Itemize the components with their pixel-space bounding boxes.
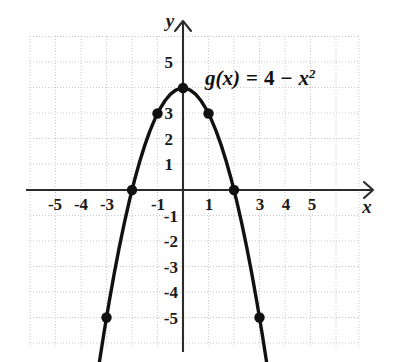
eqn-minus: − xyxy=(280,66,292,90)
x-tick-minus5: -5 xyxy=(48,195,62,214)
eqn-term: x xyxy=(297,66,309,90)
y-tick-minus2: -2 xyxy=(164,232,178,251)
y-tick-minus4: -4 xyxy=(164,283,179,302)
data-point xyxy=(229,185,239,195)
x-tick-4: 4 xyxy=(282,195,291,214)
y-tick-minus1: -1 xyxy=(164,207,178,226)
y-tick-1: 1 xyxy=(165,155,174,174)
eqn-equals: = xyxy=(246,66,258,90)
eqn-arg: (x) xyxy=(216,66,241,90)
y-axis-label: y xyxy=(164,10,175,31)
y-tick-minus3: -3 xyxy=(164,258,178,277)
data-point xyxy=(254,312,264,322)
eqn-constant: 4 xyxy=(264,66,275,90)
y-tick-2: 2 xyxy=(165,130,174,149)
data-point xyxy=(101,312,111,322)
x-tick-minus3: -3 xyxy=(100,195,114,214)
plot-canvas: x y -5 -4 -3 -1 1 3 4 5 5 3 2 1 -1 -2 -3… xyxy=(0,0,396,362)
y-tick-minus5: -5 xyxy=(164,309,178,328)
eqn-fn: g xyxy=(204,66,216,90)
data-point xyxy=(152,108,162,118)
data-point xyxy=(178,83,188,93)
data-point xyxy=(203,108,213,118)
x-tick-minus4: -4 xyxy=(74,195,89,214)
x-tick-5: 5 xyxy=(308,195,317,214)
eqn-exponent: 2 xyxy=(308,66,316,81)
x-tick-3: 3 xyxy=(256,195,265,214)
y-tick-5: 5 xyxy=(165,53,174,72)
x-tick-1: 1 xyxy=(205,195,214,214)
graph-figure: x y -5 -4 -3 -1 1 3 4 5 5 3 2 1 -1 -2 -3… xyxy=(0,0,396,362)
x-axis-label: x xyxy=(361,196,372,217)
grid xyxy=(30,36,359,348)
y-tick-3: 3 xyxy=(165,104,174,123)
axes xyxy=(26,21,373,352)
data-point xyxy=(127,185,137,195)
